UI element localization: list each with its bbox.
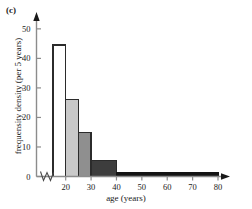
y-tick-label: 40	[22, 53, 31, 63]
y-tick-label: 30	[22, 83, 31, 93]
x-tick-label: 50	[138, 182, 147, 192]
panel-label: (c)	[6, 5, 16, 15]
histogram-bar	[91, 160, 116, 176]
arrow-up-icon	[33, 12, 39, 21]
x-tick-label: 20	[61, 182, 70, 192]
x-tick-label: 40	[112, 182, 121, 192]
arrow-right-icon	[221, 173, 230, 179]
x-tick-label: 70	[188, 182, 197, 192]
y-axis-label: frequensity density (per 5 years)	[13, 16, 23, 176]
histogram-plot: 0102030405020304050607080	[0, 0, 252, 209]
histogram-bar	[53, 45, 66, 176]
histogram-bar	[78, 132, 91, 176]
x-axis-label: age (years)	[0, 193, 252, 203]
bars-layer	[53, 45, 218, 176]
x-tick-label: 80	[214, 182, 223, 192]
x-tick-label: 60	[163, 182, 172, 192]
y-tick-label: 10	[22, 142, 31, 152]
x-tick-label: 30	[87, 182, 96, 192]
y-tick-label: 20	[22, 112, 31, 122]
y-tick-label: 50	[22, 24, 31, 34]
figure-panel: (c) frequensity density (per 5 years) ag…	[0, 0, 252, 209]
histogram-bar	[66, 100, 79, 177]
ticks-layer: 0102030405020304050607080	[22, 24, 222, 192]
y-tick-label: 0	[26, 172, 30, 182]
